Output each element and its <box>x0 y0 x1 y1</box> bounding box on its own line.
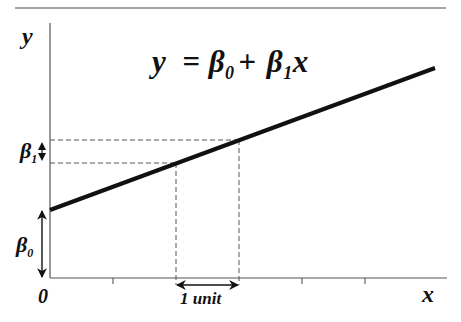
equation-beta0-sub: 0 <box>225 63 235 83</box>
intercept-sub: 0 <box>27 246 33 260</box>
equation-equals: = <box>183 44 201 79</box>
equation-beta0: β <box>209 44 225 79</box>
regression-line-diagram: y =β0+β1x y x 0 β1 β0 1 unit <box>0 0 461 322</box>
equation-plus: + <box>239 44 257 79</box>
y-axis-label: y <box>22 24 33 48</box>
slope-beta: β <box>20 138 31 163</box>
slope-sub: 1 <box>31 152 37 166</box>
equation-var: x <box>293 44 309 79</box>
regression-line <box>50 68 435 210</box>
dashed-guides <box>50 140 239 285</box>
equation-beta1-sub: 1 <box>283 63 293 83</box>
equation-label: y =β0+β1x <box>152 46 309 77</box>
slope-arrow <box>38 142 46 161</box>
slope-label: β1 <box>20 140 37 162</box>
equation-lhs: y <box>152 44 166 79</box>
origin-label: 0 <box>38 286 48 306</box>
x-axis-label: x <box>422 282 434 306</box>
unit-label: 1 unit <box>180 290 221 307</box>
intercept-beta: β <box>16 232 27 257</box>
equation-beta1: β <box>267 44 283 79</box>
intercept-label: β0 <box>16 234 33 256</box>
